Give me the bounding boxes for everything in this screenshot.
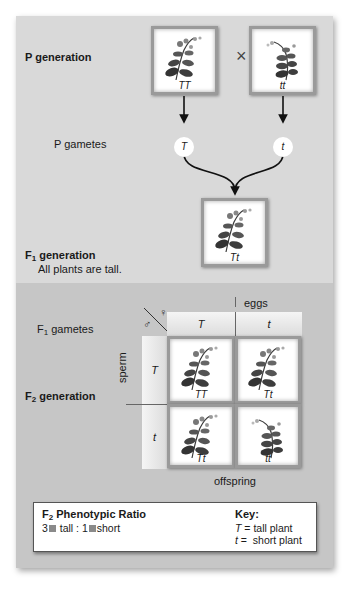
ratio-title-prefix: F: [42, 508, 49, 520]
offspring-genotype: TT: [170, 389, 232, 400]
offspring-label: offspring: [214, 475, 256, 487]
key-eq: =: [238, 534, 253, 546]
sperm-label: sperm: [116, 352, 128, 383]
f1-description: All plants are tall.: [38, 263, 122, 275]
gamete-T: T: [174, 137, 194, 157]
key-eq: =: [241, 522, 253, 534]
key-meaning: short plant: [253, 534, 302, 546]
offspring-tt: tt: [235, 404, 301, 468]
sperm-allele-t: t: [142, 404, 167, 469]
offspring-genotype: tt: [238, 453, 298, 464]
ratio-text: 3 tall : 1short: [42, 522, 120, 534]
offspring-TT: TT: [167, 336, 235, 404]
eggs-label: eggs: [244, 297, 268, 309]
offspring-Tt-1: Tt: [235, 336, 301, 404]
short-label: short: [97, 522, 120, 534]
sperm-divider: [126, 404, 143, 405]
f1-label-prefix: F: [25, 249, 32, 261]
offspring-genotype: Tt: [238, 389, 298, 400]
tall-plant-icon: [245, 342, 291, 394]
offspring-Tt-2: Tt: [167, 404, 235, 468]
short-square-icon: [89, 525, 96, 532]
eggs-divider: [235, 297, 236, 307]
f2-label-prefix: F: [25, 390, 32, 402]
key-item-short: t = short plant: [235, 534, 302, 546]
key-title: Key:: [235, 508, 259, 520]
f2-generation-label: F2 generation: [25, 390, 95, 404]
ratio-title-suffix: Phenotypic Ratio: [53, 508, 146, 520]
key-item-tall: T = tall plant: [235, 522, 293, 534]
female-symbol: ♀: [159, 306, 167, 318]
gamete-t: t: [273, 137, 293, 157]
f1-label-suffix: generation: [36, 249, 95, 261]
tall-count: 3: [42, 522, 48, 534]
ratio-title: F2 Phenotypic Ratio: [42, 508, 146, 522]
sperm-allele-T: T: [142, 336, 167, 404]
f1-generation-label: F1 generation: [25, 249, 95, 263]
f1-plant: Tt: [201, 198, 268, 267]
egg-allele-T: T: [167, 312, 235, 336]
f1-genotype: Tt: [204, 252, 265, 263]
egg-allele-t: t: [235, 312, 302, 336]
monohybrid-cross-diagram: P generation TT × tt P gametes T t F1 ge…: [16, 16, 333, 568]
p-gametes-label: P gametes: [54, 138, 106, 150]
f1-gametes-suffix: gametes: [48, 323, 93, 335]
key-meaning: tall plant: [253, 522, 292, 534]
offspring-genotype: Tt: [170, 453, 232, 464]
tall-plant-icon: [212, 204, 258, 256]
inheritance-arrows: [16, 16, 333, 216]
f2-label-suffix: generation: [36, 390, 95, 402]
tall-label: tall :: [57, 522, 82, 534]
phenotypic-ratio-box: F2 Phenotypic Ratio 3 tall : 1short Key:…: [33, 502, 317, 552]
short-count: 1: [82, 522, 88, 534]
f1-gametes-label: F1 gametes: [37, 323, 93, 337]
tall-plant-icon: [178, 342, 224, 394]
tall-square-icon: [49, 525, 56, 532]
male-symbol: ♂: [143, 318, 151, 330]
f1-gametes-prefix: F: [37, 323, 44, 335]
